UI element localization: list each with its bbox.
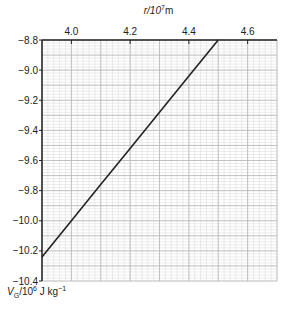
y-tick-label: −8.8 (18, 35, 38, 46)
x-tick-label: 4.6 (241, 26, 255, 37)
y-tick-label: −10.0 (13, 215, 39, 226)
y-tick-label: −9.2 (18, 95, 38, 106)
x-tick-label: 4.4 (182, 26, 196, 37)
x-axis-label: r/107m (0, 4, 287, 16)
potential-chart: 4.04.24.44.6−8.8−9.0−9.2−9.4−9.6−9.8−10.… (0, 0, 287, 309)
y-tick-label: −9.8 (18, 185, 38, 196)
x-tick-label: 4.2 (123, 26, 137, 37)
y-tick-label: −9.6 (18, 155, 38, 166)
y-tick-label: −9.0 (18, 65, 38, 76)
y-axis-label: VG/106 J kg−1 (7, 285, 66, 299)
plot-area: 4.04.24.44.6−8.8−9.0−9.2−9.4−9.6−9.8−10.… (0, 0, 287, 309)
y-tick-label: −9.4 (18, 125, 38, 136)
x-tick-label: 4.0 (64, 26, 78, 37)
y-tick-label: −10.2 (13, 245, 39, 256)
